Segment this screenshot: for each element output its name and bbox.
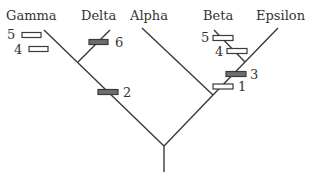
character-label: 5 xyxy=(7,27,15,42)
phylogenetic-tree: Gamma Delta Alpha Beta Epsilon 5 4 6 2 5… xyxy=(0,0,314,179)
character-bar xyxy=(98,90,118,95)
branch-to-gamma xyxy=(44,30,164,146)
character-bar xyxy=(213,36,233,41)
branch-to-delta xyxy=(78,30,110,62)
character-bar xyxy=(29,47,48,52)
character-label: 6 xyxy=(115,35,123,50)
character-label: 2 xyxy=(123,85,131,100)
character-label: 4 xyxy=(14,42,22,57)
taxon-alpha: Alpha xyxy=(129,8,168,23)
taxon-beta: Beta xyxy=(203,8,233,23)
character-marks: 5 4 6 2 5 4 3 1 xyxy=(7,27,258,100)
character-bar xyxy=(227,49,247,54)
character-bar xyxy=(226,72,246,77)
character-bar xyxy=(89,40,108,45)
character-label: 4 xyxy=(215,44,223,59)
taxon-gamma: Gamma xyxy=(6,8,57,23)
character-label: 1 xyxy=(238,79,246,94)
character-bar xyxy=(22,33,41,38)
character-label: 5 xyxy=(201,30,209,45)
branch-right-clade xyxy=(164,95,213,146)
character-label: 3 xyxy=(250,67,258,82)
taxon-delta: Delta xyxy=(81,8,116,23)
taxon-epsilon: Epsilon xyxy=(256,8,306,23)
character-bar xyxy=(213,84,233,89)
